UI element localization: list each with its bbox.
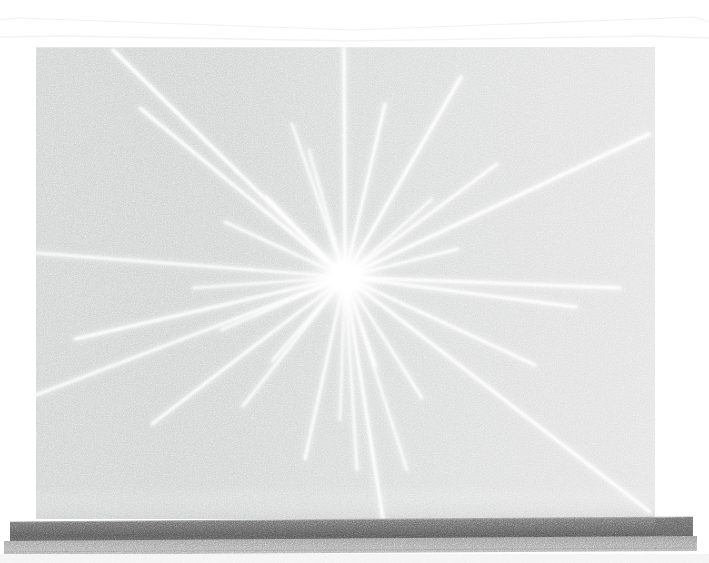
film-grain (0, 0, 709, 563)
scene-canvas (0, 0, 709, 563)
photograph-scene: Radiating white lines converging on a si… (0, 0, 709, 563)
